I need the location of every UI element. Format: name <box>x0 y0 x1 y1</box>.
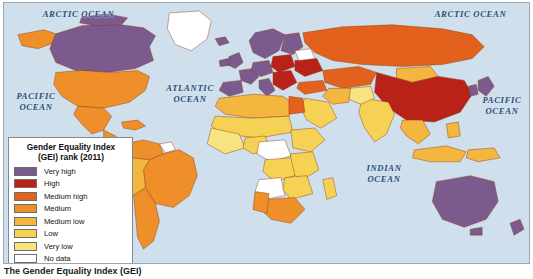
region-namibia[interactable] <box>253 192 269 214</box>
legend-swatch <box>14 179 37 188</box>
legend-swatch <box>14 254 37 263</box>
map-canvas[interactable]: ARCTIC OCEAN ARCTIC OCEAN PACIFIC OCEAN … <box>3 2 530 264</box>
legend-item[interactable]: Medium high <box>14 190 128 203</box>
legend-item[interactable]: No data <box>14 253 128 265</box>
legend-swatch <box>14 204 37 213</box>
legend-item[interactable]: Medium <box>14 203 128 216</box>
legend-swatch <box>14 242 37 251</box>
legend-item[interactable]: Very high <box>14 165 128 178</box>
region-korea[interactable] <box>468 84 478 96</box>
figure-caption: The Gender Equality Index (GEI) <box>4 266 524 276</box>
region-canada[interactable] <box>50 24 156 73</box>
legend-item[interactable]: Low <box>14 228 128 241</box>
legend-label: Low <box>44 229 58 238</box>
legend-title: Gender Equality Index (GEI) rank (2011) <box>14 142 128 162</box>
legend-label: High <box>44 179 60 188</box>
legend-label: Medium high <box>44 192 87 201</box>
legend-item[interactable]: Medium low <box>14 215 128 228</box>
legend-item[interactable]: Very low <box>14 240 128 253</box>
legend-swatch <box>14 229 37 238</box>
legend-items: Very highHighMedium highMediumMedium low… <box>14 165 128 264</box>
legend-label: No data <box>44 254 71 263</box>
legend-label: Very high <box>44 167 76 176</box>
world-map-figure: ARCTIC OCEAN ARCTIC OCEAN PACIFIC OCEAN … <box>0 0 533 279</box>
legend-swatch <box>14 192 37 201</box>
legend-label: Medium <box>44 204 71 213</box>
map-legend: Gender Equality Index (GEI) rank (2011) … <box>8 137 133 264</box>
legend-swatch <box>14 217 37 226</box>
legend-label: Very low <box>44 242 73 251</box>
region-philippines[interactable] <box>446 122 460 138</box>
region-north-africa[interactable] <box>215 94 295 118</box>
legend-swatch <box>14 167 37 176</box>
legend-item[interactable]: High <box>14 178 128 191</box>
region-egypt[interactable] <box>289 96 305 114</box>
legend-label: Medium low <box>44 217 85 226</box>
